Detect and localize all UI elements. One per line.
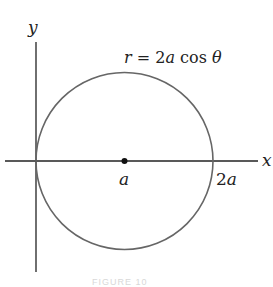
x-axis-label: x — [262, 150, 272, 170]
equation-label: r = 2a cos θ — [124, 48, 222, 67]
right-label-2a: 2a — [216, 169, 237, 189]
center-label-a: a — [119, 169, 129, 189]
y-axis-label: y — [27, 17, 38, 37]
polar-circle-diagram: y x r = 2a cos θ a 2a FIGURE 10 — [0, 0, 273, 287]
center-point — [122, 158, 128, 164]
figure-caption: FIGURE 10 — [92, 277, 148, 287]
